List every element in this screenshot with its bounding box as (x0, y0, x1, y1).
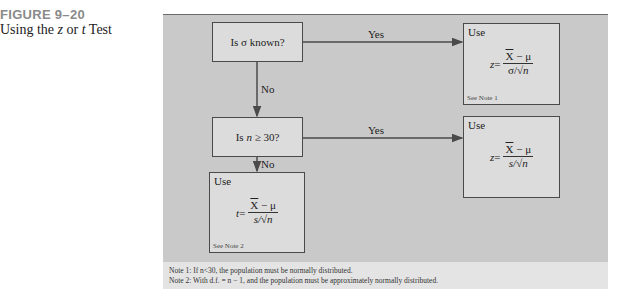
see-note-2: See Note 2 (213, 242, 244, 250)
use-label: Use (468, 119, 485, 131)
decision-text: Is σ known? (230, 36, 284, 48)
use-label: Use (468, 26, 485, 38)
result-t-test: Use t = X − μ s/√n See Note 2 (209, 172, 305, 253)
yes-label-2: Yes (368, 124, 384, 136)
notes-strip: Note 1: If n<30, the population must be … (163, 262, 608, 289)
see-note-1: See Note 1 (467, 94, 498, 102)
use-label: Use (214, 175, 231, 187)
z-formula-sigma: z = X − μ σ/√n (464, 50, 559, 77)
note-1: Note 1: If n<30, the population must be … (169, 266, 353, 275)
decision-sigma-known: Is σ known? (212, 22, 303, 62)
z-formula-s: z = X − μ s/√n (464, 143, 559, 170)
no-label-1: No (261, 83, 274, 95)
note-2: Note 2: With d.f. = n − 1, and the popul… (169, 276, 438, 285)
decision-n-ge-30: Is n ≥ 30? (212, 117, 303, 157)
result-z-test-s: Use z = X − μ s/√n (463, 116, 560, 198)
result-z-test-sigma: Use z = X − μ σ/√n See Note 1 (463, 23, 560, 105)
decision-text: Is n ≥ 30? (236, 131, 280, 143)
no-label-2: No (261, 158, 274, 170)
t-formula: t = X − μ s/√n (210, 199, 304, 226)
yes-label-1: Yes (368, 28, 384, 40)
